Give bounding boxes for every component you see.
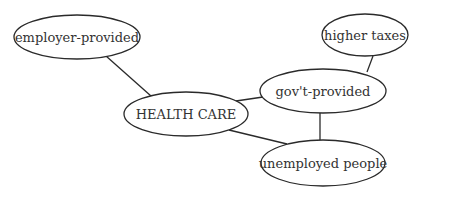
edge-health-unemployed xyxy=(229,130,287,144)
node-label: unemployed people xyxy=(259,156,388,171)
node-govt-provided: gov't-provided xyxy=(260,69,386,113)
node-unemployed-people: unemployed people xyxy=(259,140,388,186)
node-label: higher taxes xyxy=(324,28,406,43)
node-label: gov't-provided xyxy=(276,84,371,99)
edge-health-govt xyxy=(236,97,263,101)
node-employer-provided: employer-provided xyxy=(14,15,140,59)
node-label: employer-provided xyxy=(15,30,139,45)
node-health-care: HEALTH CARE xyxy=(124,92,248,136)
edge-employer-health xyxy=(106,56,151,96)
edge-govt-taxes xyxy=(367,56,373,72)
concept-map: employer-provided HEALTH CARE gov't-prov… xyxy=(0,0,467,198)
node-higher-taxes: higher taxes xyxy=(322,14,408,56)
node-label: HEALTH CARE xyxy=(136,107,237,122)
